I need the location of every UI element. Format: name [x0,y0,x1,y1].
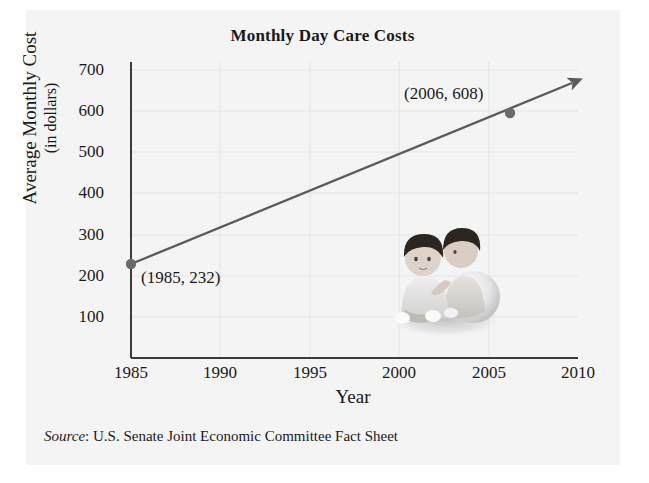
source-label: Source [44,428,85,444]
data-point-marker-1985 [126,259,136,269]
x-tick-label-2000: 2000 [369,364,429,382]
annotation-2006-608: (2006, 608) [404,84,483,104]
x-tick-label-1985: 1985 [101,364,161,382]
photo-shoe-right [444,308,458,318]
x-axis-title: Year [313,386,393,408]
x-tick-label-2010: 2010 [548,364,608,382]
y-tick-label-600: 600 [58,102,104,120]
y-tick-label-700: 700 [58,61,104,79]
photo-child-right-eye [453,250,456,254]
chart-figure: Monthly Day Care Costs Average Monthly C… [0,0,649,483]
children-with-ball-illustration [385,224,507,340]
x-tick-label-1995: 1995 [280,364,340,382]
y-tick-label-500: 500 [58,143,104,161]
source-separator: : [85,428,93,444]
source-note: Source: U.S. Senate Joint Economic Commi… [44,428,398,445]
photo-child-left-eye-left [414,257,418,262]
y-tick-label-300: 300 [58,226,104,244]
photo-child-left-eye-right [427,257,431,262]
children-photo-svg [385,224,507,340]
annotation-1985-232: (1985, 232) [141,268,220,288]
y-tick-label-200: 200 [58,267,104,285]
y-tick-label-100: 100 [58,308,104,326]
source-text: U.S. Senate Joint Economic Committee Fac… [93,428,398,444]
x-tick-label-1990: 1990 [190,364,250,382]
figure-page: Monthly Day Care Costs Average Monthly C… [0,0,649,483]
x-tick-label-2005: 2005 [459,364,519,382]
y-tick-label-400: 400 [58,184,104,202]
photo-shoe-left [394,312,410,324]
data-point-marker-2006 [505,108,515,118]
